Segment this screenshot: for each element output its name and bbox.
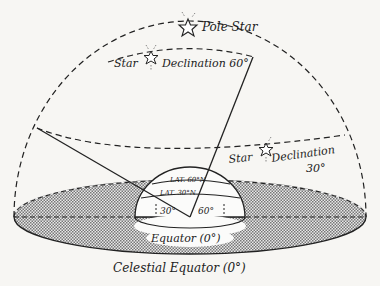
angle-60-label: 60° (198, 206, 214, 216)
declination-30-value: 30° (306, 162, 326, 175)
angle-30-label: 30° (160, 206, 176, 216)
latitude-30-label: LAT. 30°N (159, 189, 197, 197)
star-declination-60-icon (144, 45, 158, 70)
celestial-equator-label: Celestial Equator (0°) (113, 261, 246, 275)
celestial-sphere-diagram: Pole Star Star Declination 60° Star Decl… (0, 0, 380, 286)
declination-30-arc (37, 128, 345, 148)
pole-star-label: Pole Star (201, 20, 259, 34)
declination-60-label: Declination 60° (161, 57, 249, 70)
pole-star-icon (179, 12, 197, 36)
latitude-60-label: LAT. 60°N (169, 176, 207, 184)
star-60-label: Star (114, 57, 139, 70)
equator-label: Equator (0°) (150, 232, 221, 245)
declination-30-label: Declination (270, 143, 336, 165)
star-30-label: Star (228, 150, 254, 165)
